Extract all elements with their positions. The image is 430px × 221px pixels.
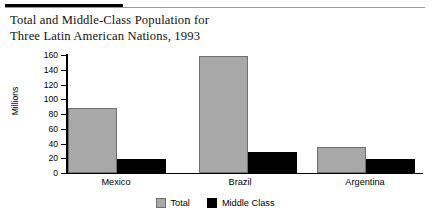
bar-middle-class-brazil [248,152,297,173]
legend-label-total: Total [171,198,190,208]
x-category-label-argentina: Argentina [305,177,425,187]
x-category-label-brazil: Brazil [180,177,300,187]
x-category-label-mexico: Mexico [56,177,176,187]
bar-total-argentina [317,147,366,173]
legend-swatch-total-icon [156,198,166,208]
bars-layer [0,0,430,173]
plot-area: Millions 0 20 40 60 80 100 120 140 160 M… [0,0,430,190]
legend-item-middle-class: Middle Class [207,198,275,208]
bar-middle-class-argentina [366,159,415,173]
bar-total-brazil [199,56,248,173]
chart-legend: Total Middle Class [0,198,430,208]
legend-swatch-middle-class-icon [207,198,217,208]
legend-label-middle-class: Middle Class [222,198,275,208]
bar-total-mexico [68,108,117,173]
y-tick-0 [61,173,66,174]
chart-figure: Total and Middle-Class Population for Th… [0,0,430,221]
legend-item-total: Total [156,198,190,208]
bar-middle-class-mexico [117,159,166,173]
